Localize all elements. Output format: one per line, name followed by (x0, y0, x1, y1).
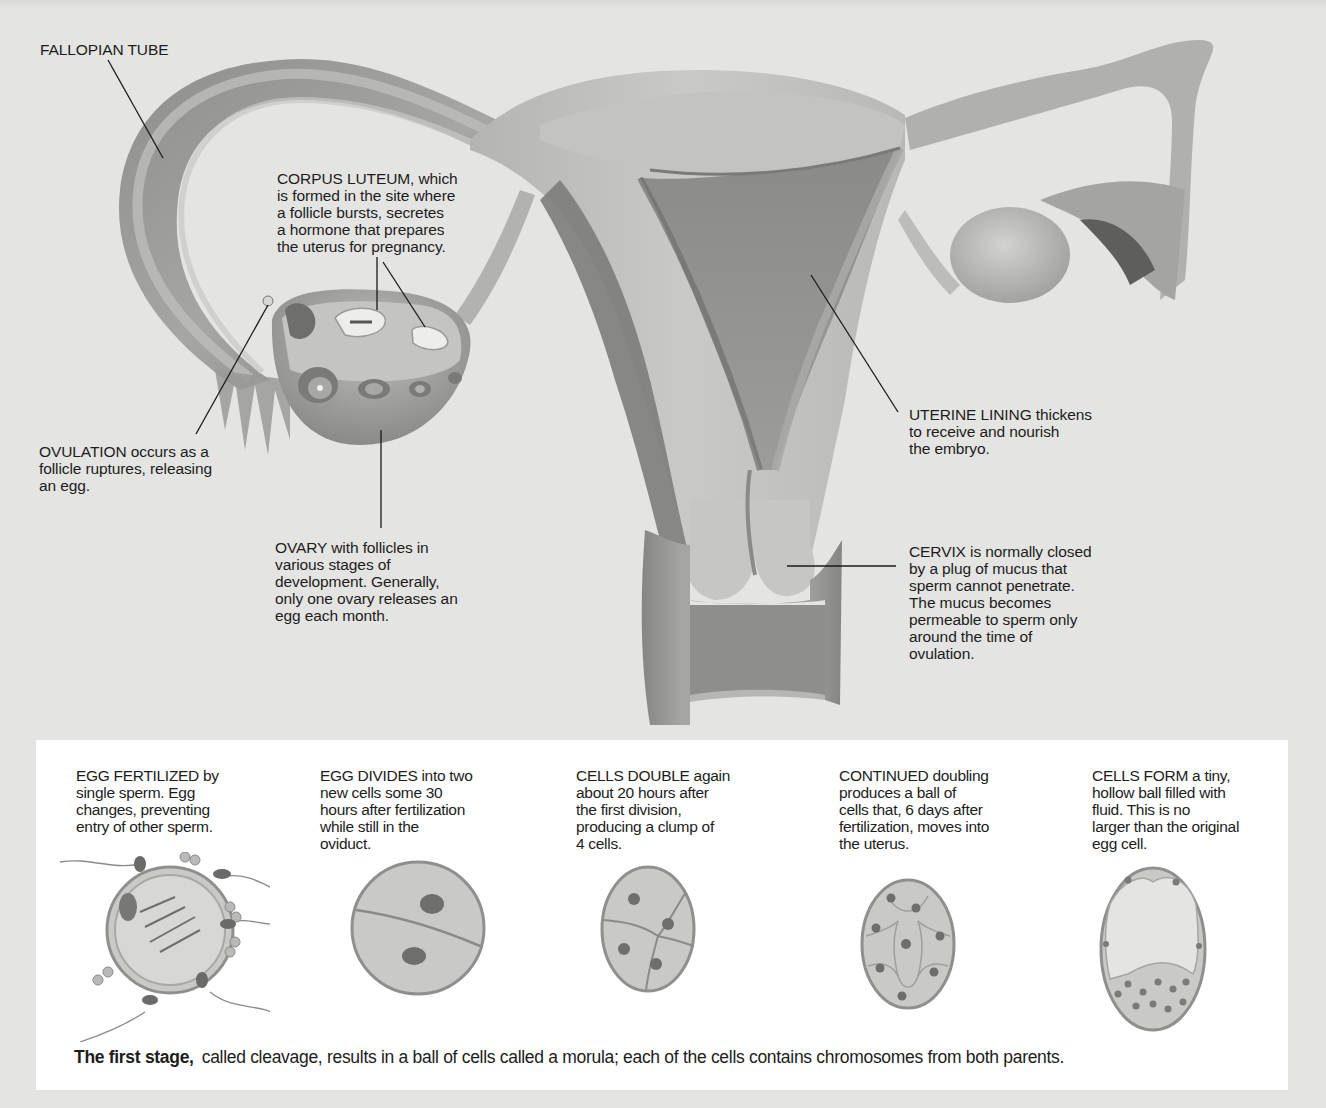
corpus-luteum-line: the uterus for pregnancy. (277, 238, 458, 255)
right-ovary (950, 207, 1070, 303)
stage-line: single sperm. Egg (76, 784, 219, 801)
stage-line: hollow ball filled with (1092, 784, 1239, 801)
stage-line: EGG DIVIDES into two (320, 767, 473, 784)
two-cell-embryo-icon (348, 858, 488, 998)
corpus-luteum-line: is formed in the site where (277, 187, 458, 204)
stage-line: changes, preventing (76, 801, 219, 818)
stage-line: hours after fertilization (320, 801, 473, 818)
figure-caption: The first stage,called cleavage, results… (74, 1047, 1064, 1068)
ovary-label: OVARY with follicles in various stages o… (275, 539, 458, 624)
stage-line: produces a ball of (839, 784, 989, 801)
stage-5-description: CELLS FORM a tiny, hollow ball filled wi… (1092, 767, 1239, 852)
cleavage-stages-panel: EGG FERTILIZED by single sperm. Egg chan… (36, 740, 1288, 1090)
ovulation-line: OVULATION occurs as a (39, 443, 212, 460)
cervix-line: The mucus becomes (909, 594, 1091, 611)
stage-4-description: CONTINUED doubling produces a ball of ce… (839, 767, 989, 852)
left-ovary (263, 289, 471, 445)
cervix-line: permeable to sperm only (909, 611, 1091, 628)
ovulation-label: OVULATION occurs as a follicle ruptures,… (39, 443, 212, 494)
stage-line: 4 cells. (576, 835, 730, 852)
fertilized-egg-icon (50, 852, 270, 1042)
uterine-lining-line: the embryo. (909, 440, 1092, 457)
corpus-luteum-line: a hormone that prepares (277, 221, 458, 238)
stage-line: fluid. This is no (1092, 801, 1239, 818)
uterine-lining-line: to receive and nourish (909, 423, 1092, 440)
stage-line: while still in the (320, 818, 473, 835)
uterus-anatomy-illustration (0, 0, 1326, 740)
ovary-line: only one ovary releases an (275, 590, 458, 607)
cervix-line: sperm cannot penetrate. (909, 577, 1091, 594)
caption-lead: The first stage, (74, 1047, 194, 1067)
caption-text: called cleavage, results in a ball of ce… (202, 1047, 1064, 1067)
four-cell-embryo-icon (598, 864, 698, 994)
stage-line: larger than the original (1092, 818, 1239, 835)
ovary-line: development. Generally, (275, 573, 458, 590)
stage-line: producing a clump of (576, 818, 730, 835)
stage-line: about 20 hours after (576, 784, 730, 801)
stage-1-description: EGG FERTILIZED by single sperm. Egg chan… (76, 767, 219, 835)
cervix-line: by a plug of mucus that (909, 560, 1091, 577)
corpus-luteum-line: a follicle bursts, secretes (277, 204, 458, 221)
cervix-line: around the time of (909, 628, 1091, 645)
ovulation-line: an egg. (39, 477, 212, 494)
fallopian-tube-label: FALLOPIAN TUBE (40, 41, 168, 58)
cervix-line: ovulation. (909, 645, 1091, 662)
stage-line: CELLS FORM a tiny, (1092, 767, 1239, 784)
uterine-lining-line: UTERINE LINING thickens (909, 406, 1092, 423)
cervix-label: CERVIX is normally closed by a plug of m… (909, 543, 1091, 662)
uterus-body (470, 70, 905, 560)
stage-line: CELLS DOUBLE again (576, 767, 730, 784)
stage-line: CONTINUED doubling (839, 767, 989, 784)
stage-2-description: EGG DIVIDES into two new cells some 30 h… (320, 767, 473, 852)
cervix-line: CERVIX is normally closed (909, 543, 1091, 560)
morula-icon (858, 876, 958, 1016)
ovary-line: egg each month. (275, 607, 458, 624)
blastocyst-icon (1098, 864, 1208, 1034)
fallopian-tube-label-text: FALLOPIAN TUBE (40, 41, 168, 58)
uterine-lining-label: UTERINE LINING thickens to receive and n… (909, 406, 1092, 457)
corpus-luteum-line: CORPUS LUTEUM, which (277, 170, 458, 187)
stage-line: entry of other sperm. (76, 818, 219, 835)
stage-line: new cells some 30 (320, 784, 473, 801)
ovary-line: various stages of (275, 556, 458, 573)
stage-line: egg cell. (1092, 835, 1239, 852)
stage-line: EGG FERTILIZED by (76, 767, 219, 784)
ovulation-line: follicle ruptures, releasing (39, 460, 212, 477)
stage-line: cells that, 6 days after (839, 801, 989, 818)
ovary-line: OVARY with follicles in (275, 539, 458, 556)
stage-3-description: CELLS DOUBLE again about 20 hours after … (576, 767, 730, 852)
stage-line: fertilization, moves into (839, 818, 989, 835)
stage-line: the uterus. (839, 835, 989, 852)
stage-line: oviduct. (320, 835, 473, 852)
stage-line: the first division, (576, 801, 730, 818)
corpus-luteum-label: CORPUS LUTEUM, which is formed in the si… (277, 170, 458, 255)
